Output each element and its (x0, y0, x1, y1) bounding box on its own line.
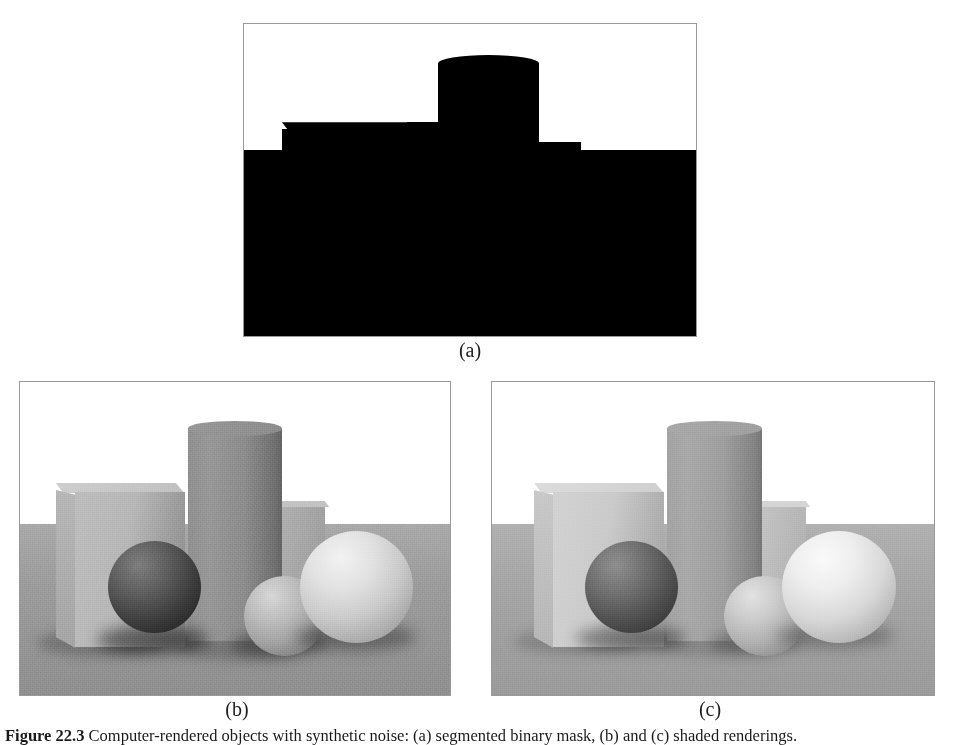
panel-b-dark-sphere (108, 541, 200, 633)
panel-a-large-box-top (282, 122, 419, 134)
panel-b-label: (b) (177, 699, 297, 719)
panel-a-binary-mask (243, 23, 697, 337)
panel-c-cylinder-cap (667, 421, 762, 435)
panel-a-scene (244, 24, 696, 336)
panel-b-bright-sphere (300, 531, 414, 644)
figure-caption-text: Computer-rendered objects with synthetic… (84, 726, 797, 745)
panel-a-cylinder-cap (438, 55, 538, 72)
figure-caption-label: Figure 22.3 (5, 726, 84, 745)
panel-b-cylinder-cap (188, 421, 283, 435)
panel-c-dark-sphere (585, 541, 678, 633)
panel-c-rendering (491, 381, 935, 696)
panel-c-label: (c) (650, 699, 770, 719)
panel-b-scene (20, 382, 450, 695)
panel-c-large-box-side (534, 490, 553, 648)
panel-b-rendering (19, 381, 451, 696)
panel-c-bright-sphere (782, 531, 897, 644)
figure-caption: Figure 22.3 Computer-rendered objects wi… (5, 726, 950, 745)
panel-b-large-box-side (56, 490, 76, 648)
panel-c-scene (492, 382, 934, 695)
panel-a-label: (a) (410, 340, 530, 360)
panel-a-ground-plane (244, 150, 696, 336)
